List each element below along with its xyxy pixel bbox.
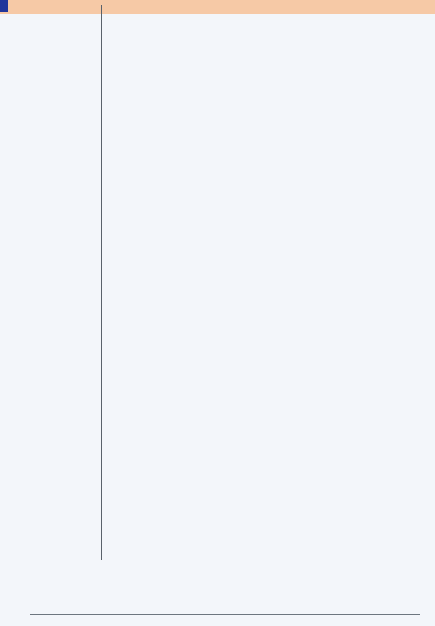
category-label-column <box>0 5 96 568</box>
x-axis <box>101 569 431 591</box>
y-axis-line <box>101 5 102 560</box>
footer-rule <box>30 614 420 615</box>
callout-max-value <box>0 0 8 12</box>
plot-area <box>101 5 420 568</box>
chart-container <box>0 0 435 626</box>
